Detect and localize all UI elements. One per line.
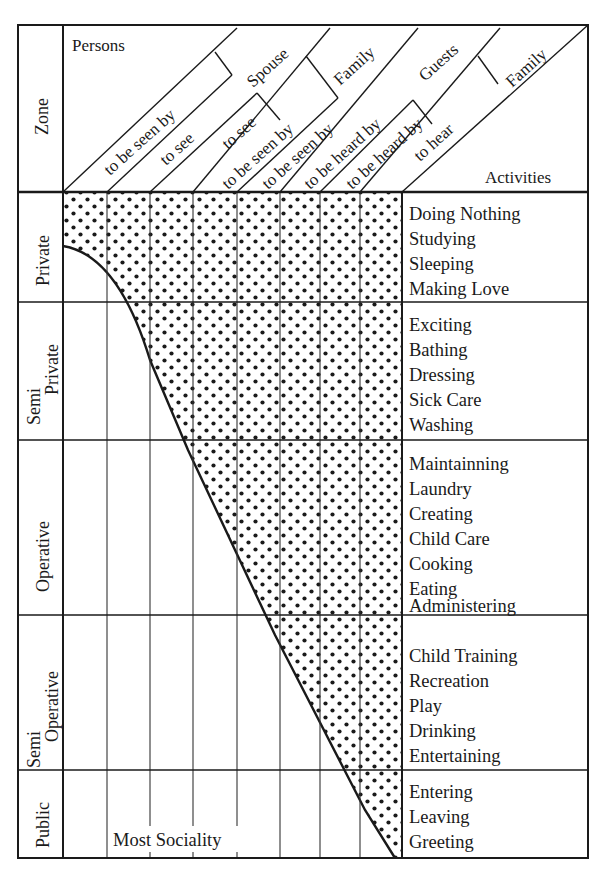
activity: Cooking xyxy=(409,554,473,574)
persons-label: Persons xyxy=(72,36,125,55)
activities-public: Entering Leaving Greeting xyxy=(409,782,474,852)
activities-semi-operative: Child Training Recreation Play Drinking … xyxy=(409,646,517,766)
shaded-privacy-region xyxy=(63,192,402,858)
activity: Sleeping xyxy=(409,254,474,274)
privacy-sociality-diagram: Persons Activities Zone to be seen by to… xyxy=(0,0,605,876)
activities-label: Activities xyxy=(485,168,551,187)
activity: Studying xyxy=(409,229,476,249)
activity: Sick Care xyxy=(409,390,481,410)
activity: Bathing xyxy=(409,340,468,360)
activity: Child Care xyxy=(409,529,490,549)
activities-operative: Maintainning Laundry Creating Child Care… xyxy=(409,454,516,616)
diagonal-label-2: to see xyxy=(156,129,198,169)
group-label-family: Family xyxy=(330,42,379,89)
group-label-spouse: Spouse xyxy=(243,44,292,91)
activity: Entertaining xyxy=(409,746,500,766)
activity: Dressing xyxy=(409,365,475,385)
activity: Laundry xyxy=(409,479,472,499)
activity: Recreation xyxy=(409,671,489,691)
activity: Child Training xyxy=(409,646,517,666)
most-sociality-label: Most Sociality xyxy=(113,830,222,850)
zone-public: Public xyxy=(33,802,53,848)
zone-private: Private xyxy=(33,235,53,286)
group-label-family-2: Family xyxy=(502,44,551,91)
zone-semi-operative-2: Operative xyxy=(42,671,62,742)
activities-semi-private: Exciting Bathing Dressing Sick Care Wash… xyxy=(409,315,481,435)
activity: Creating xyxy=(409,504,473,524)
zone-semi-private-2: Private xyxy=(42,344,62,395)
activity: Entering xyxy=(409,782,473,802)
activity: Maintainning xyxy=(409,454,509,474)
activities-private: Doing Nothing Studying Sleeping Making L… xyxy=(409,204,521,299)
zone-label: Zone xyxy=(32,98,52,135)
group-label-guests: Guests xyxy=(415,40,462,85)
zone-operative: Operative xyxy=(33,521,53,592)
activity: Exciting xyxy=(409,315,472,335)
activity: Washing xyxy=(409,415,473,435)
zone-semi-private-1: Semi xyxy=(24,388,44,425)
activity: Making Love xyxy=(409,279,509,299)
activity: Administering xyxy=(409,596,516,616)
activity: Leaving xyxy=(409,807,470,827)
activity: Play xyxy=(409,696,443,716)
activity: Doing Nothing xyxy=(409,204,521,224)
zone-semi-operative-1: Semi xyxy=(24,731,44,768)
activity: Greeting xyxy=(409,832,474,852)
activity: Drinking xyxy=(409,721,476,741)
